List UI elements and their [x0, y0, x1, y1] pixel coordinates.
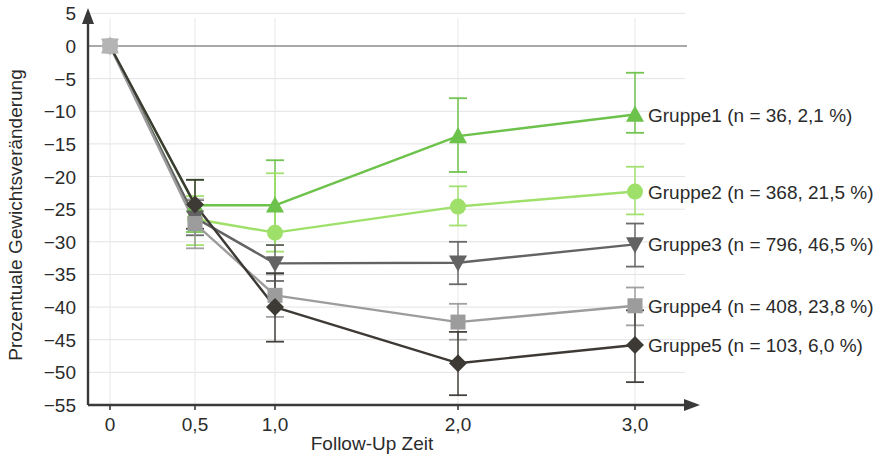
legend: Gruppe1 (n = 36, 2,1 %)Gruppe2 (n = 368,… [648, 105, 874, 356]
legend-item-label: Gruppe5 (n = 103, 6,0 %) [648, 335, 863, 356]
data-point-marker [628, 298, 643, 313]
y-axis-ticks: 50−5−10−15−20−25−30−35−40−45−50−55 [44, 3, 76, 416]
chart-svg: 50−5−10−15−20−25−30−35−40−45−50−55 00,51… [0, 0, 896, 458]
data-point-marker [267, 225, 283, 241]
y-axis-title: Prozentuale Gewichtsveränderung [5, 69, 26, 361]
y-tick-label: −10 [44, 101, 76, 122]
x-tick-label: 2,0 [445, 414, 471, 435]
y-tick-label: −20 [44, 167, 76, 188]
y-tick-label: −30 [44, 232, 76, 253]
x-tick-label: 0 [105, 414, 116, 435]
data-point-marker [451, 315, 466, 330]
data-point-marker [627, 184, 643, 200]
y-tick-label: −45 [44, 330, 76, 351]
y-tick-label: −5 [54, 69, 76, 90]
data-point-marker [188, 216, 203, 231]
data-point-marker [626, 336, 644, 354]
x-axis-ticks: 00,51,02,03,0 [105, 405, 649, 435]
y-tick-label: −15 [44, 134, 76, 155]
y-tick-label: −50 [44, 362, 76, 383]
chart-container: 50−5−10−15−20−25−30−35−40−45−50−55 00,51… [0, 0, 896, 458]
x-axis-title: Follow-Up Zeit [311, 433, 434, 454]
x-tick-label: 3,0 [622, 414, 648, 435]
legend-item-label: Gruppe1 (n = 36, 2,1 %) [648, 105, 852, 126]
data-point-marker [626, 106, 644, 122]
y-tick-label: −35 [44, 264, 76, 285]
y-tick-label: 0 [65, 36, 76, 57]
y-tick-label: −55 [44, 395, 76, 416]
legend-item-label: Gruppe4 (n = 408, 23,8 %) [648, 296, 874, 317]
x-tick-label: 1,0 [262, 414, 288, 435]
y-tick-label: −25 [44, 199, 76, 220]
x-tick-label: 0,5 [182, 414, 208, 435]
data-point-marker [450, 199, 466, 215]
data-point-marker [449, 354, 467, 372]
y-tick-label: −40 [44, 297, 76, 318]
legend-item-label: Gruppe2 (n = 368, 21,5 %) [648, 182, 874, 203]
gridlines [88, 13, 685, 405]
y-tick-label: 5 [65, 3, 76, 24]
series-markers [101, 37, 644, 372]
legend-item-label: Gruppe3 (n = 796, 46,5 %) [648, 234, 874, 255]
